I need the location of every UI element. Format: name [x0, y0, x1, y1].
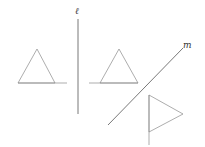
reflected-triangle-m	[149, 95, 183, 132]
original-triangle	[18, 49, 55, 83]
reflection-diagram: ℓ m	[0, 0, 205, 147]
diagram-svg	[0, 0, 205, 147]
reflected-triangle-l	[100, 49, 138, 83]
label-l: ℓ	[75, 6, 79, 16]
label-m: m	[183, 40, 192, 50]
line-m	[108, 48, 183, 125]
